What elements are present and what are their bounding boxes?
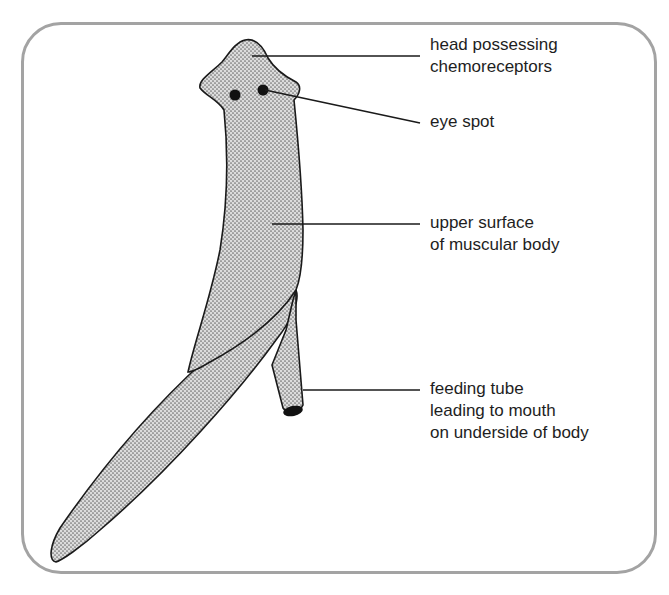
label-upper-surface: upper surface of muscular body <box>430 212 559 256</box>
label-upper-surface-line-2: of muscular body <box>430 234 559 256</box>
label-upper-surface-line-1: upper surface <box>430 212 559 234</box>
label-eye-spot: eye spot <box>430 111 494 133</box>
label-feeding-tube-line-1: feeding tube <box>430 378 589 400</box>
left-eye-spot <box>230 90 241 101</box>
tail-blade <box>51 290 297 562</box>
label-feeding-tube: feeding tube leading to mouth on undersi… <box>430 378 589 444</box>
label-head-line-2: chemoreceptors <box>430 56 558 78</box>
label-eye-spot-line-1: eye spot <box>430 111 494 133</box>
label-head-line-1: head possessing <box>430 34 558 56</box>
label-head: head possessing chemoreceptors <box>430 34 558 78</box>
flatworm-illustration <box>0 0 669 595</box>
label-feeding-tube-line-2: leading to mouth <box>430 400 589 422</box>
label-feeding-tube-line-3: on underside of body <box>430 422 589 444</box>
